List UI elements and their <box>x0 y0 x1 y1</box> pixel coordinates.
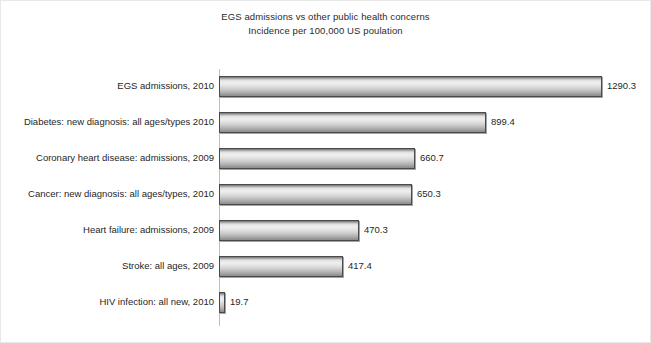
bar-coronary-heart-disease-2009[interactable] <box>219 148 415 169</box>
bar-value-label: 470.3 <box>364 224 388 236</box>
bar-container <box>219 76 602 97</box>
category-label: EGS admissions, 2010 <box>9 80 214 92</box>
category-label: HIV infection: all new, 2010 <box>9 296 214 308</box>
bar-container <box>219 292 225 313</box>
bar-value-label: 660.7 <box>420 152 444 164</box>
category-label: Heart failure: admissions, 2009 <box>9 224 214 236</box>
bar-row: Heart failure: admissions, 2009 470.3 <box>1 220 651 242</box>
bar-heart-failure-admissions-2009[interactable] <box>219 220 359 241</box>
bar-row: Coronary heart disease: admissions, 2009… <box>1 148 651 170</box>
bar-container <box>219 184 412 205</box>
bar-stroke-all-ages-2009[interactable] <box>219 256 343 277</box>
bar-container <box>219 112 486 133</box>
bar-egs-admissions-2010[interactable] <box>219 76 602 97</box>
bar-value-label: 417.4 <box>348 260 372 272</box>
category-label: Diabetes: new diagnosis: all ages/types … <box>9 116 214 128</box>
bar-row: Cancer: new diagnosis: all ages/types, 2… <box>1 184 651 206</box>
bar-diabetes-new-diagnosis-2010[interactable] <box>219 112 486 133</box>
bar-row: HIV infection: all new, 2010 19.7 <box>1 292 651 314</box>
category-label: Coronary heart disease: admissions, 2009 <box>9 152 214 164</box>
bar-row: Diabetes: new diagnosis: all ages/types … <box>1 112 651 134</box>
bar-container <box>219 148 415 169</box>
bar-container <box>219 220 359 241</box>
bar-value-label: 19.7 <box>230 296 249 308</box>
chart-frame: EGS admissions vs other public health co… <box>0 0 651 343</box>
bar-row: Stroke: all ages, 2009 417.4 <box>1 256 651 278</box>
bar-cancer-new-diagnosis-2010[interactable] <box>219 184 412 205</box>
plot-area: EGS admissions, 2010 1290.3 Diabetes: ne… <box>1 1 651 343</box>
bar-value-label: 899.4 <box>491 116 515 128</box>
bar-container <box>219 256 343 277</box>
bar-value-label: 1290.3 <box>607 80 636 92</box>
bar-row: EGS admissions, 2010 1290.3 <box>1 76 651 98</box>
bar-hiv-infection-all-new-2010[interactable] <box>219 292 225 313</box>
category-label: Cancer: new diagnosis: all ages/types, 2… <box>9 188 214 200</box>
bar-value-label: 650.3 <box>417 188 441 200</box>
category-label: Stroke: all ages, 2009 <box>9 260 214 272</box>
